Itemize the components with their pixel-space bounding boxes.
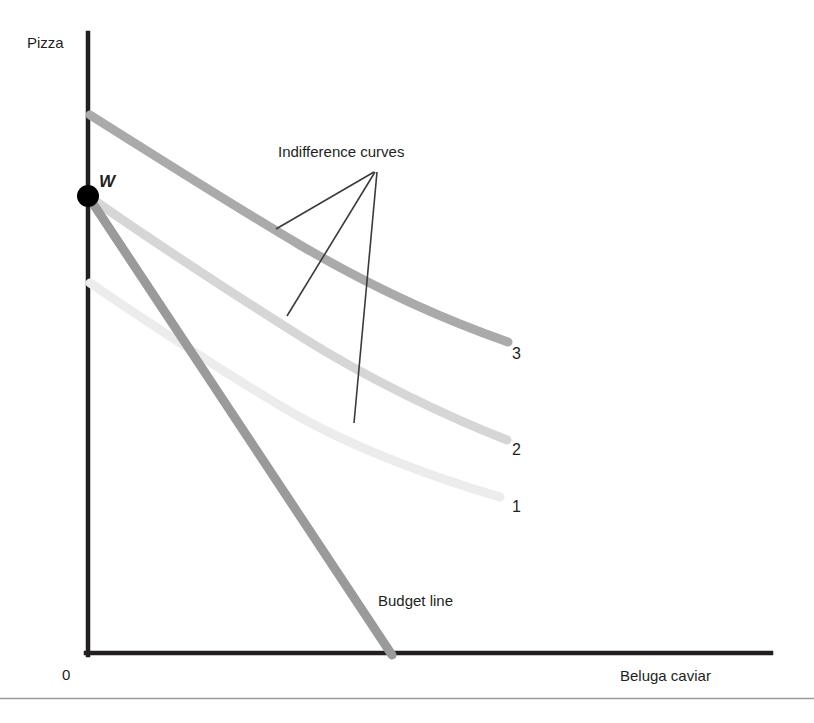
y-axis-label: Pizza [27, 34, 64, 51]
curve-label-2: 2 [512, 441, 521, 458]
leader-line-to-curve-3 [276, 172, 374, 229]
figure-container: Pizza Beluga caviar 0 W Indifference cur… [0, 0, 814, 723]
curve-label-3: 3 [512, 345, 521, 362]
indifference-curve-diagram: Pizza Beluga caviar 0 W Indifference cur… [0, 0, 814, 723]
callout-leader-lines [276, 172, 377, 423]
curve-label-1: 1 [512, 498, 521, 515]
origin-label: 0 [62, 666, 70, 683]
x-axis-label: Beluga caviar [620, 667, 711, 684]
budget-line [88, 196, 392, 655]
budget-line-label: Budget line [378, 592, 453, 609]
endowment-point-dot [77, 185, 99, 207]
leader-line-to-curve-1 [354, 172, 377, 423]
endowment-point-label: W [99, 172, 117, 191]
indifference-curves-callout-label: Indifference curves [278, 143, 404, 160]
